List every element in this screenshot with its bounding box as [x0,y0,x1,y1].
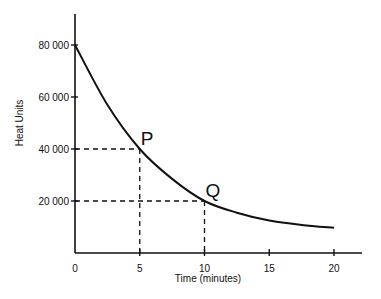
x-axis-label: Time (minutes) [175,273,241,284]
heat-decay-chart: 05101520 20 00040 00060 00080 000 PQ Hea… [0,0,381,299]
x-tick-label: 20 [328,263,340,274]
x-tick-label: 15 [264,263,276,274]
y-ticks: 20 00040 00060 00080 000 [38,40,78,207]
x-tick-label: 5 [137,263,143,274]
y-tick-label: 80 000 [38,40,69,51]
dashed-guides [75,149,205,253]
x-tick-label: 0 [72,263,78,274]
y-axis-label: Heat Units [14,100,25,147]
point-label-q: Q [206,180,221,201]
y-tick-label: 40 000 [38,144,69,155]
point-label-p: P [141,128,154,149]
y-tick-label: 60 000 [38,92,69,103]
point-annotations: PQ [141,128,221,201]
axes [75,14,362,253]
y-tick-label: 20 000 [38,196,69,207]
